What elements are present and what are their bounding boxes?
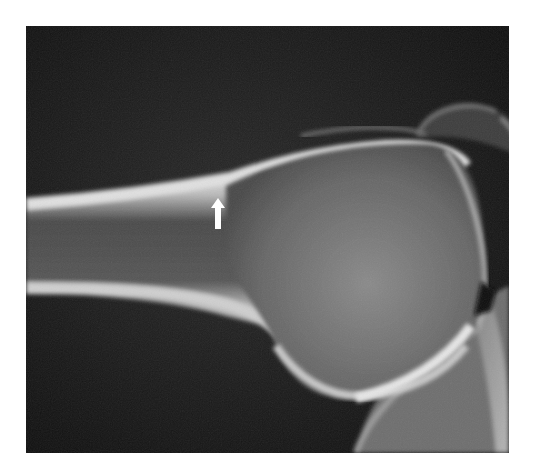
- xray-image: [26, 26, 509, 453]
- film-grain: [26, 26, 509, 453]
- xray-figure: [26, 26, 509, 453]
